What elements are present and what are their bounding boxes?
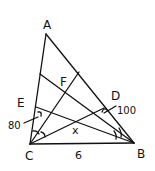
label-side-CB: 6 [75, 149, 82, 162]
label-A: A [43, 18, 52, 32]
label-B: B [137, 147, 145, 161]
leader-80 [24, 117, 38, 123]
label-E: E [17, 96, 25, 110]
angle-mark-C2 [41, 132, 45, 137]
label-angle-80: 80 [8, 120, 21, 131]
label-F: F [60, 75, 67, 89]
label-C: C [25, 149, 33, 163]
side-AC [30, 34, 46, 144]
angle-mark-E [38, 112, 41, 116]
label-x: x [72, 124, 79, 137]
label-D: D [111, 89, 120, 103]
side-CB [30, 143, 134, 144]
label-angle-100: 100 [117, 105, 136, 116]
triangle-diagram: A B C D E F x 6 80 100 [0, 0, 155, 171]
angle-mark-B2 [114, 131, 116, 139]
